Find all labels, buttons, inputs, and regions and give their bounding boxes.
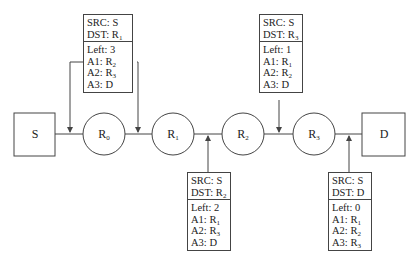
packet-src: SRC: S xyxy=(191,175,227,187)
packet-src: SRC: S xyxy=(87,17,129,29)
source-node-label: S xyxy=(14,127,56,142)
packet-header-4: SRC: S DST: D Left: 0 A1: R1 A2: R2 A3: … xyxy=(328,172,372,251)
packet1-connector-left xyxy=(70,62,83,132)
packet-left: Left: 3 xyxy=(87,44,129,56)
packet1-connector-right xyxy=(137,62,138,132)
packet-dst: DST: R2 xyxy=(191,187,227,199)
packet-hop-3: A3: D xyxy=(191,237,227,249)
packet-header-2: SRC: S DST: R2 Left: 2 A1: R1 A2: R3 A3:… xyxy=(187,172,231,251)
router-r3-label: R3 xyxy=(293,127,335,142)
packet-header-3: SRC: S DST: R3 Left: 1 A1: R1 A2: R2 A3:… xyxy=(259,14,303,93)
packet-hop-2: A2: R3 xyxy=(87,67,129,79)
packet-hop-2: A2: R2 xyxy=(332,225,368,237)
packet-dst: DST: R3 xyxy=(263,29,299,41)
packet-dst: DST: D xyxy=(332,187,368,199)
destination-node-label: D xyxy=(362,127,406,142)
packet-left: Left: 0 xyxy=(332,202,368,214)
packet-hop-3: A3: D xyxy=(263,79,299,91)
router-r2-label: R2 xyxy=(222,127,264,142)
packet-src: SRC: S xyxy=(263,17,299,29)
packet-left: Left: 1 xyxy=(263,44,299,56)
packet-hop-2: A2: R3 xyxy=(191,225,227,237)
packet-hop-1: A1: R1 xyxy=(263,56,299,68)
router-r1-label: R1 xyxy=(152,127,194,142)
packet-hop-1: A1: R2 xyxy=(87,56,129,68)
packet-header-1: SRC: S DST: R1 Left: 3 A1: R2 A2: R3 A3:… xyxy=(83,14,133,93)
packet-hop-1: A1: R1 xyxy=(332,214,368,226)
router-r0-label: R0 xyxy=(83,127,125,142)
packet-src: SRC: S xyxy=(332,175,368,187)
packet-dst: DST: R1 xyxy=(87,29,129,41)
packet-hop-1: A1: R1 xyxy=(191,214,227,226)
packet-hop-3: A3: D xyxy=(87,79,129,91)
packet-left: Left: 2 xyxy=(191,202,227,214)
packet-hop-3: A3: R3 xyxy=(332,237,368,249)
packet-hop-2: A2: R2 xyxy=(263,67,299,79)
